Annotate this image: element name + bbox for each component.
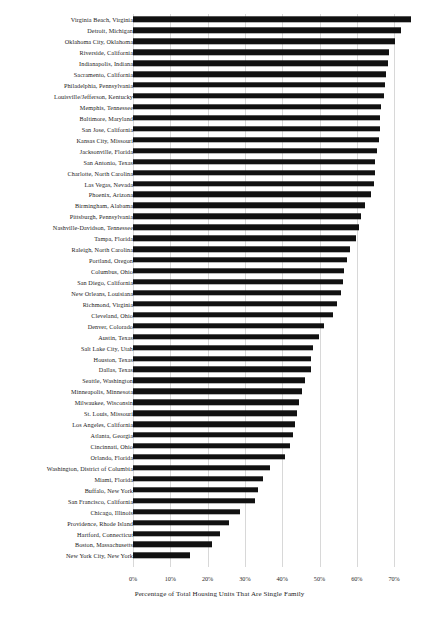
- bar-row: Riverside, California: [0, 47, 439, 58]
- bar: [133, 411, 297, 416]
- bar-category-label: Philadelphia, Pennsylvania: [64, 82, 133, 89]
- bar-category-label: Baltimore, Maryland: [80, 114, 133, 121]
- bar-row: Providence, Rhode Island: [0, 517, 439, 528]
- bar-row: Orlando, Florida: [0, 452, 439, 463]
- bar-row: San Jose, California: [0, 123, 439, 134]
- bar: [133, 148, 377, 153]
- bar-row: Austin, Texas: [0, 331, 439, 342]
- bar: [133, 520, 229, 525]
- bar-category-label: Dallas, Texas: [99, 366, 133, 373]
- plot-area: Virginia Beach, VirginiaDetroit, Michiga…: [0, 0, 439, 622]
- bar-category-label: Nashville-Davidson, Tennessee: [53, 224, 133, 231]
- bar-row: Richmond, Virginia: [0, 298, 439, 309]
- bar: [133, 181, 374, 186]
- bar-row: Miami, Florida: [0, 473, 439, 484]
- bar-category-label: Pittsburgh, Pennsylvania: [70, 213, 133, 220]
- bar: [133, 421, 295, 426]
- bar-row: Washington, District of Columbia: [0, 462, 439, 473]
- bar-category-label: Detroit, Michigan: [87, 27, 133, 34]
- bar: [133, 115, 380, 120]
- bar-category-label: Chicago, Illinois: [90, 508, 133, 515]
- bar-row: New York City, New York: [0, 550, 439, 561]
- bar-category-label: Virginia Beach, Virginia: [71, 16, 133, 23]
- bar-track: [133, 495, 439, 506]
- bar-track: [133, 408, 439, 419]
- bar: [133, 268, 344, 273]
- x-axis-title: Percentage of Total Housing Units That A…: [0, 590, 439, 598]
- bar-category-label: St. Louis, Missouri: [84, 410, 133, 417]
- bar-track: [133, 331, 439, 342]
- bar-row: Detroit, Michigan: [0, 25, 439, 36]
- bar: [133, 542, 212, 547]
- bar-category-label: Buffalo, New York: [85, 486, 133, 493]
- bar-category-label: Houston, Texas: [94, 355, 133, 362]
- bar-category-label: Memphis, Tennessee: [80, 103, 133, 110]
- x-tick-label: 50%: [314, 574, 325, 583]
- bar-row: Cleveland, Ohio: [0, 309, 439, 320]
- bar-track: [133, 539, 439, 550]
- bar-track: [133, 298, 439, 309]
- bar-category-label: Raleigh, North Carolina: [72, 246, 133, 253]
- housing-units-bar-chart: Virginia Beach, VirginiaDetroit, Michiga…: [0, 0, 439, 622]
- bar-row: Milwaukee, Wisconsin: [0, 397, 439, 408]
- x-tick-label: 70%: [388, 574, 399, 583]
- bar-row: Tampa, Florida: [0, 233, 439, 244]
- bar-track: [133, 452, 439, 463]
- bar-category-label: San Jose, California: [82, 125, 133, 132]
- bar-track: [133, 58, 439, 69]
- bar-category-label: Richmond, Virginia: [83, 300, 133, 307]
- bar-row: Nashville-Davidson, Tennessee: [0, 222, 439, 233]
- bar-category-label: Washington, District of Columbia: [47, 464, 133, 471]
- bar: [133, 39, 395, 44]
- bar-category-label: Louisville/Jefferson, Kentucky: [54, 93, 133, 100]
- bar-category-label: San Antonio, Texas: [83, 158, 133, 165]
- bar-track: [133, 517, 439, 528]
- bar-track: [133, 320, 439, 331]
- x-tick-label: 30%: [239, 574, 250, 583]
- bar-row: Dallas, Texas: [0, 364, 439, 375]
- bar-track: [133, 25, 439, 36]
- bar-category-label: Indianapolis, Indiana: [79, 60, 133, 67]
- bar-track: [133, 69, 439, 80]
- bar: [133, 50, 389, 55]
- bar-track: [133, 200, 439, 211]
- bar: [133, 389, 302, 394]
- bar-category-label: Salt Lake City, Utah: [81, 344, 133, 351]
- bar: [133, 553, 190, 558]
- bar-track: [133, 277, 439, 288]
- bar-row: San Diego, California: [0, 277, 439, 288]
- bar: [133, 476, 263, 481]
- bar-category-label: Austin, Texas: [98, 333, 133, 340]
- bar-category-label: Cincinnati, Ohio: [90, 443, 133, 450]
- bar-row: Louisville/Jefferson, Kentucky: [0, 91, 439, 102]
- bar: [133, 378, 305, 383]
- bar: [133, 104, 381, 109]
- bar: [133, 93, 384, 98]
- bar: [133, 71, 386, 76]
- bar: [133, 301, 337, 306]
- bar: [133, 356, 311, 361]
- bar: [133, 334, 319, 339]
- bar-category-label: Miami, Florida: [94, 475, 133, 482]
- bar-track: [133, 353, 439, 364]
- bar: [133, 159, 375, 164]
- bar-track: [133, 134, 439, 145]
- bar-category-label: Los Angeles, California: [72, 421, 133, 428]
- bar-track: [133, 419, 439, 430]
- bar-track: [133, 266, 439, 277]
- bar: [133, 443, 290, 448]
- bar-category-label: New York City, New York: [66, 552, 133, 559]
- bar-category-label: Seattle, Washington: [82, 377, 133, 384]
- bar-row: Denver, Colorado: [0, 320, 439, 331]
- bar: [133, 323, 324, 328]
- bar-row: Memphis, Tennessee: [0, 102, 439, 113]
- bar-category-label: Denver, Colorado: [88, 322, 133, 329]
- bar-row: Oklahoma City, Oklahoma: [0, 36, 439, 47]
- bar-row: Los Angeles, California: [0, 419, 439, 430]
- bar-track: [133, 36, 439, 47]
- bar: [133, 345, 313, 350]
- bar-category-label: Minneapolis, Minnesota: [71, 388, 133, 395]
- bar-row: Atlanta, Georgia: [0, 430, 439, 441]
- bar-category-label: Birmingham, Alabama: [75, 202, 133, 209]
- bar-row: Chicago, Illinois: [0, 506, 439, 517]
